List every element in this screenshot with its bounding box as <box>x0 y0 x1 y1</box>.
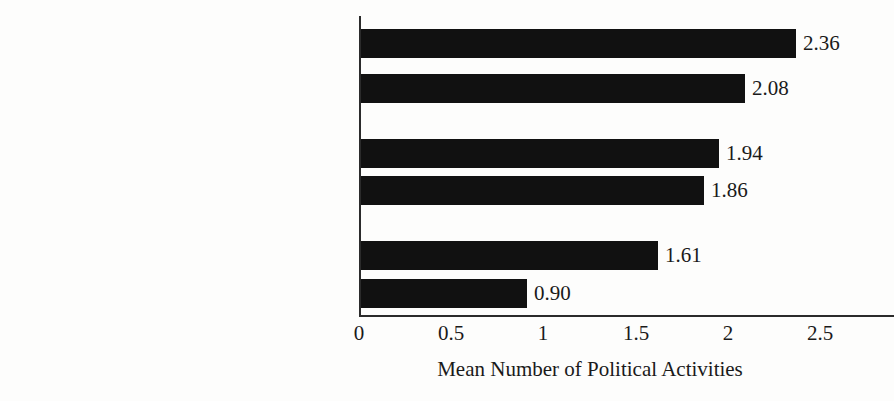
bar-chart-figure: Non-Hispanic White Men 2.36 Non-Hispanic… <box>0 0 894 401</box>
bar-value-label-2: 1.94 <box>719 139 763 168</box>
bar-0[interactable] <box>361 29 796 58</box>
bar-value-label-0: 2.36 <box>796 29 840 58</box>
x-tick-label-1: 0.5 <box>438 320 464 346</box>
bar-value-label-1: 2.08 <box>745 74 789 103</box>
bar-4[interactable] <box>361 241 658 270</box>
bar-value-label-5: 0.90 <box>527 279 571 308</box>
bar-1[interactable] <box>361 74 745 103</box>
bar-3[interactable] <box>361 176 704 205</box>
x-tick-label-4: 2 <box>723 320 734 346</box>
x-tick-label-2: 1 <box>538 320 549 346</box>
x-axis-line <box>359 315 894 317</box>
bar-value-label-3: 1.86 <box>704 176 748 205</box>
x-tick-label-0: 0 <box>354 320 365 346</box>
bar-value-label-4: 1.61 <box>658 241 702 270</box>
bar-2[interactable] <box>361 139 719 168</box>
bar-5[interactable] <box>361 279 527 308</box>
x-axis-title: Mean Number of Political Activities <box>359 356 821 382</box>
x-tick-label-5: 2.5 <box>807 320 833 346</box>
x-tick-label-3: 1.5 <box>623 320 649 346</box>
